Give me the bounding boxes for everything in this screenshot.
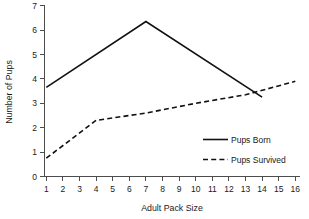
line-chart: 0 1 2 3 4 5 6 7 1 2 3 4	[0, 0, 309, 219]
x-tick-label-13: 13	[241, 184, 251, 194]
x-tick-label-9: 9	[177, 184, 182, 194]
y-axis-title: Number of Pups	[4, 60, 14, 124]
y-tick-label-3: 3	[32, 98, 37, 108]
series-line-pups-born	[46, 22, 262, 98]
series-line-pups-survived	[46, 81, 295, 158]
chart-legend: Pups Born Pups Survived	[203, 135, 286, 165]
x-tick-label-3: 3	[77, 184, 82, 194]
legend-label-pups-survived: Pups Survived	[231, 155, 286, 165]
x-tick-label-7: 7	[144, 184, 149, 194]
x-tick-label-5: 5	[110, 184, 115, 194]
x-tick-label-11: 11	[208, 184, 217, 194]
x-tick-label-8: 8	[160, 184, 165, 194]
x-tick-label-6: 6	[127, 184, 132, 194]
x-tick-label-16: 16	[291, 184, 301, 194]
y-tick-label-7: 7	[32, 1, 37, 11]
x-tick-label-10: 10	[191, 184, 201, 194]
x-tick-label-2: 2	[61, 184, 66, 194]
x-tick-label-12: 12	[224, 184, 234, 194]
y-tick-label-0: 0	[32, 172, 37, 182]
chart-figure: 0 1 2 3 4 5 6 7 1 2 3 4	[0, 0, 309, 219]
y-tick-label-2: 2	[32, 123, 37, 133]
y-tick-label-6: 6	[32, 25, 37, 35]
y-axis-ticks: 0 1 2 3 4 5 6 7	[32, 1, 44, 182]
y-tick-label-4: 4	[32, 74, 37, 84]
x-axis-title: Adult Pack Size	[141, 203, 203, 213]
x-tick-label-14: 14	[257, 184, 267, 194]
y-tick-label-1: 1	[32, 147, 37, 157]
y-tick-label-5: 5	[32, 50, 37, 60]
legend-label-pups-born: Pups Born	[231, 135, 271, 145]
x-axis-ticks: 1 2 3 4 5 6 7 8 9 10 11 12 13	[44, 177, 300, 194]
x-tick-label-15: 15	[274, 184, 284, 194]
x-tick-label-1: 1	[44, 184, 49, 194]
x-tick-label-4: 4	[94, 184, 99, 194]
